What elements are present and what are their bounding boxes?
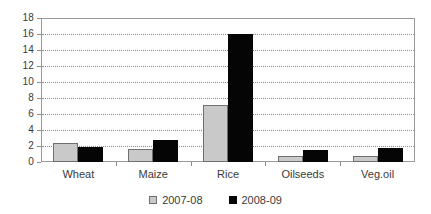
bar-group bbox=[278, 18, 328, 162]
y-tick-label: 16 bbox=[22, 29, 34, 39]
bar-group bbox=[128, 18, 178, 162]
bar-group bbox=[203, 18, 253, 162]
bar bbox=[78, 147, 103, 162]
bar bbox=[153, 140, 178, 162]
x-tick-mark bbox=[340, 162, 341, 166]
y-tick-label: 4 bbox=[28, 125, 34, 135]
x-axis: WheatMaizeRiceOilseedsVeg.oil bbox=[41, 162, 415, 186]
bar-group bbox=[353, 18, 403, 162]
bar bbox=[128, 149, 153, 162]
bar bbox=[228, 34, 253, 162]
x-category-label: Wheat bbox=[62, 168, 94, 180]
legend-entry: 2008-09 bbox=[229, 194, 282, 206]
bar bbox=[378, 148, 403, 162]
legend-swatch-icon bbox=[149, 196, 157, 204]
bars-layer bbox=[41, 18, 415, 162]
bar bbox=[303, 150, 328, 162]
y-axis: 024681012141618 bbox=[0, 0, 41, 180]
x-tick-mark bbox=[191, 162, 192, 166]
bar bbox=[203, 105, 228, 162]
bar bbox=[53, 143, 78, 162]
y-tick-label: 10 bbox=[22, 77, 34, 87]
y-tick-label: 12 bbox=[22, 61, 34, 71]
y-tick-label: 6 bbox=[28, 109, 34, 119]
legend-entry: 2007-08 bbox=[149, 194, 202, 206]
y-tick-label: 8 bbox=[28, 93, 34, 103]
x-category-label: Maize bbox=[139, 168, 168, 180]
x-tick-mark bbox=[265, 162, 266, 166]
x-category-label: Rice bbox=[217, 168, 239, 180]
legend-label: 2008-09 bbox=[242, 194, 282, 206]
x-category-label: Veg.oil bbox=[361, 168, 394, 180]
y-tick-label: 0 bbox=[28, 157, 34, 167]
y-tick-label: 18 bbox=[22, 13, 34, 23]
chart-legend: 2007-082008-09 bbox=[0, 191, 431, 209]
bar-group bbox=[53, 18, 103, 162]
bar-chart: 024681012141618 WheatMaizeRiceOilseedsVe… bbox=[0, 0, 431, 214]
y-tick-label: 2 bbox=[28, 141, 34, 151]
x-category-label: Oilseeds bbox=[281, 168, 324, 180]
legend-swatch-icon bbox=[229, 196, 237, 204]
legend-label: 2007-08 bbox=[162, 194, 202, 206]
y-tick-label: 14 bbox=[22, 45, 34, 55]
x-tick-mark bbox=[116, 162, 117, 166]
